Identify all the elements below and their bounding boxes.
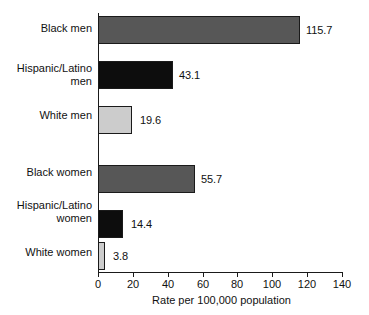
- x-tick-label: 60: [197, 278, 209, 290]
- x-tick: [168, 272, 169, 277]
- bar-chart: Black men Hispanic/Latino men White men …: [0, 0, 369, 315]
- x-tick-label: 40: [162, 278, 174, 290]
- x-tick: [98, 272, 99, 277]
- x-tick: [307, 272, 308, 277]
- x-tick: [133, 272, 134, 277]
- category-label-black-women: Black women: [0, 166, 92, 179]
- x-tick-label: 100: [263, 278, 281, 290]
- x-tick-label: 140: [333, 278, 351, 290]
- bar-value-label: 115.7: [306, 24, 332, 36]
- category-label-hispanic-latino-women: Hispanic/Latino women: [0, 199, 92, 225]
- bar-row: 55.7: [98, 165, 342, 193]
- bar-white-men[interactable]: [98, 106, 132, 134]
- bar-value-label: 55.7: [201, 173, 222, 185]
- x-tick-label: 120: [298, 278, 316, 290]
- plot-area: 115.7 43.1 19.6 55.7 14.4 3.8: [98, 14, 342, 272]
- bar-row: 115.7: [98, 16, 342, 44]
- category-label-black-men: Black men: [0, 22, 92, 35]
- bar-black-women[interactable]: [98, 165, 195, 193]
- category-label-white-women: White women: [0, 246, 92, 259]
- x-tick: [342, 272, 343, 277]
- category-label-white-men: White men: [0, 109, 92, 122]
- bar-value-label: 19.6: [140, 114, 161, 126]
- x-tick: [203, 272, 204, 277]
- bar-row: 3.8: [98, 242, 342, 270]
- bar-black-men[interactable]: [98, 16, 300, 44]
- x-axis-title: Rate per 100,000 population: [0, 294, 369, 306]
- bar-row: 43.1: [98, 61, 342, 89]
- bar-row: 19.6: [98, 106, 342, 134]
- x-tick: [237, 272, 238, 277]
- bar-white-women[interactable]: [98, 242, 105, 270]
- bar-value-label: 14.4: [131, 218, 152, 230]
- bar-row: 14.4: [98, 210, 342, 238]
- bar-hispanic-latino-men[interactable]: [98, 61, 173, 89]
- x-tick-label: 0: [95, 278, 101, 290]
- x-tick: [272, 272, 273, 277]
- bar-hispanic-latino-women[interactable]: [98, 210, 123, 238]
- bar-value-label: 43.1: [179, 69, 200, 81]
- x-tick-label: 80: [231, 278, 243, 290]
- bar-value-label: 3.8: [113, 250, 128, 262]
- x-axis-title-text: Rate per 100,000 population: [78, 294, 291, 306]
- category-label-hispanic-latino-men: Hispanic/Latino men: [0, 62, 92, 88]
- x-tick-label: 20: [127, 278, 139, 290]
